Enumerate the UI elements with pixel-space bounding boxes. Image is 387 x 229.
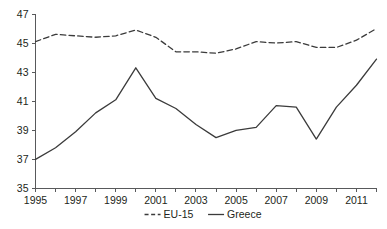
x-tick-label: 1999 xyxy=(104,194,128,206)
x-tick-label: 2011 xyxy=(345,194,368,206)
x-tick-label: 2009 xyxy=(305,194,329,206)
legend-label-greece: Greece xyxy=(227,208,262,220)
y-tick-label: 39 xyxy=(17,124,29,136)
y-tick-label: 47 xyxy=(17,8,29,20)
line-chart: 35373941434547 1995199719992001200320052… xyxy=(0,0,387,229)
x-tick-label: 1995 xyxy=(24,194,48,206)
x-tick-label: 2007 xyxy=(265,194,289,206)
x-tick-group: 199519971999200120032005200720092011 xyxy=(24,189,377,207)
series-group xyxy=(36,29,377,160)
series-line-greece xyxy=(36,59,377,159)
chart-canvas: 35373941434547 1995199719992001200320052… xyxy=(0,0,387,229)
y-tick-label: 37 xyxy=(17,153,29,165)
y-tick-label: 45 xyxy=(17,37,29,49)
series-line-eu-15 xyxy=(36,29,377,54)
x-tick-label: 2001 xyxy=(144,194,168,206)
y-tick-group: 35373941434547 xyxy=(17,8,36,195)
x-tick-label: 1997 xyxy=(64,194,88,206)
x-tick-label: 2003 xyxy=(184,194,208,206)
y-tick-label: 35 xyxy=(17,182,29,194)
chart-legend: EU-15Greece xyxy=(145,208,262,220)
y-tick-label: 41 xyxy=(17,95,29,107)
legend-label-eu-15: EU-15 xyxy=(164,208,194,220)
x-axis: 199519971999200120032005200720092011 xyxy=(24,189,377,207)
y-tick-label: 43 xyxy=(17,66,29,78)
y-axis: 35373941434547 xyxy=(17,8,36,195)
x-tick-label: 2005 xyxy=(224,194,248,206)
